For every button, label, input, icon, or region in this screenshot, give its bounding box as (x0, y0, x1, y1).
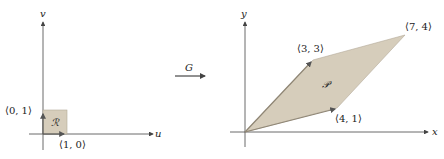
x-axis-label: x (432, 126, 438, 137)
y-axis-label: y (240, 8, 247, 19)
u-axis-label: u (155, 128, 161, 139)
point-1-0-label: ⟨1, 0⟩ (59, 139, 86, 150)
point-7-4-label: ⟨7, 4⟩ (405, 21, 432, 32)
point-0-1-label: ⟨0, 1⟩ (5, 105, 32, 116)
map-g: G (175, 62, 205, 76)
point-3-3-label: ⟨3, 3⟩ (297, 43, 324, 54)
point-4-1-label: ⟨4, 1⟩ (335, 113, 362, 124)
map-label: G (185, 62, 193, 73)
region-r-label: ℛ (51, 117, 60, 128)
transformation-diagram: u v ℛ ⟨0, 1⟩ ⟨1, 0⟩ G x y 𝒫 ⟨3, 3⟩ ⟨7, 4… (0, 0, 444, 159)
v-axis-label: v (40, 8, 46, 19)
xy-plane: x y 𝒫 ⟨3, 3⟩ ⟨7, 4⟩ ⟨4, 1⟩ (230, 8, 438, 147)
uv-plane: u v ℛ ⟨0, 1⟩ ⟨1, 0⟩ (5, 8, 161, 150)
